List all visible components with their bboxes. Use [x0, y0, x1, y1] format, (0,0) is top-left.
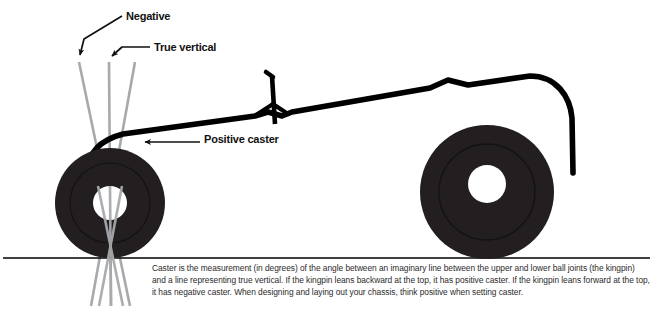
shock-strut-body — [272, 76, 275, 124]
label-positive-caster: Positive caster — [204, 133, 279, 145]
label-true-vertical: True vertical — [154, 41, 216, 53]
callout-leaders — [80, 16, 200, 142]
label-negative: Negative — [126, 10, 170, 22]
negative-leader — [80, 16, 122, 55]
shock-strut-upper-arm — [266, 72, 273, 77]
caster-angle-figure: Negative True vertical Positive caster C… — [0, 0, 653, 316]
figure-caption: Caster is the measurement (in degrees) o… — [152, 262, 650, 299]
rear-wheel — [420, 125, 554, 259]
true-vertical-leader — [112, 47, 150, 56]
rear-hub — [468, 165, 506, 203]
